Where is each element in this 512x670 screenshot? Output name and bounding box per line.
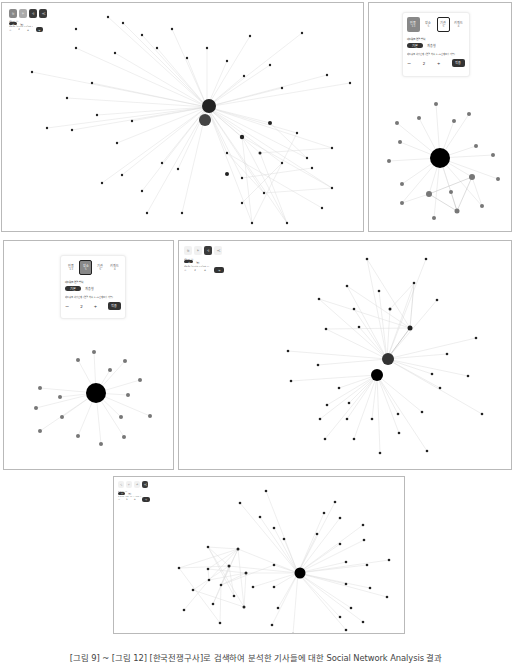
screenshot-org-network: 인물 장소 기관 키워드 네트워크 연결 방식 기본 계층형 네트워크 확장 단… [178,240,512,470]
screenshot-keyword-network: 인물 장소 기관 키워드 네트워크 연결 방식 기본 계층형 네트워크 확장 단… [113,476,405,634]
network-graph [2,3,364,232]
network-graph [4,241,174,470]
network-graph [369,3,512,232]
screenshot-person-network: 인물13 장소5 기관5 키워드4 네트워크 연결 방식 기본 계층형 네트워크… [368,2,512,232]
network-graph [114,477,405,634]
edges [32,17,350,223]
screenshot-keyword-network-large: 인물 장소 기관 키워드 네트워크 연결 방식 기본 계층형 네트워크 확장 단… [1,2,364,232]
screenshot-place-network: 인물13 장소5 기관5 키워드4 네트워크 연결 방식 기본 계층형 네트워크… [3,240,174,470]
network-graph [179,241,512,470]
figure-caption: [그림 9] ~ [그림 12] [한국전쟁구사]로 검색하여 분석한 기사들에… [0,651,512,663]
